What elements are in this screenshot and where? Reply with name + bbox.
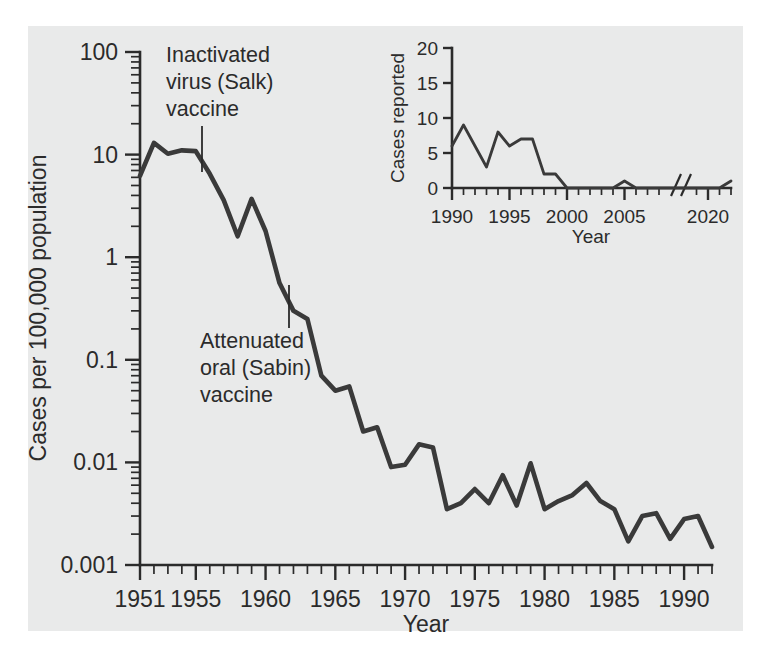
inset-y-tick-label: 20 (417, 38, 438, 59)
inset-x-tick-label: 1990 (431, 206, 473, 227)
y-tick-label: 0.1 (86, 347, 118, 373)
x-tick-label: 1970 (379, 586, 430, 612)
figure-root: 100 10 1 0.1 0.01 0.001 Cases per 100,00… (0, 0, 761, 658)
annotation-salk-line-1: Inactivated (166, 43, 270, 67)
inset-x-tick-label: 1995 (488, 206, 530, 227)
y-tick-label: 1 (105, 244, 118, 270)
inset-y-tick-label: 5 (427, 143, 438, 164)
main-y-axis (125, 52, 140, 565)
x-tick-label: 1960 (240, 586, 291, 612)
x-tick-label: 1975 (449, 586, 500, 612)
main-y-tick-labels: 100 10 1 0.1 0.01 0.001 (60, 39, 118, 578)
main-x-axis-title: Year (403, 611, 450, 637)
y-tick-label: 100 (80, 39, 118, 65)
inset-x-tick-label: 2005 (603, 206, 645, 227)
polio-incidence-chart: 100 10 1 0.1 0.01 0.001 Cases per 100,00… (0, 0, 761, 658)
x-tick-label: 1955 (170, 586, 221, 612)
main-y-axis-title: Cases per 100,000 population (25, 155, 51, 462)
main-x-tick-labels: 195119551960196519701975198019851990 (114, 586, 709, 612)
annotation-sabin-line-3: vaccine (200, 383, 273, 407)
inset-x-tick-label: 2020 (687, 206, 729, 227)
inset-x-tick-label: 2000 (546, 206, 588, 227)
x-tick-label: 1980 (519, 586, 570, 612)
x-tick-label: 1965 (310, 586, 361, 612)
inset-x-axis-title: Year (572, 226, 611, 247)
inset-y-tick-label: 0 (427, 178, 438, 199)
annotation-sabin: Attenuated oral (Sabin) vaccine (200, 285, 311, 407)
x-tick-label: 1951 (114, 586, 165, 612)
annotation-salk-line-3: vaccine (166, 97, 239, 121)
main-x-ticks (140, 565, 712, 580)
annotation-sabin-line-2: oral (Sabin) (200, 356, 311, 380)
inset-axis-break-icon (671, 174, 691, 196)
annotation-salk-line-2: virus (Salk) (166, 70, 274, 94)
annotation-sabin-line-1: Attenuated (200, 329, 304, 353)
inset-y-tick-labels: 20 15 10 5 0 (417, 38, 438, 199)
x-tick-label: 1985 (589, 586, 640, 612)
inset-x-ticks (452, 188, 731, 200)
inset-x-tick-labels: 19901995200020052020 (431, 206, 729, 227)
x-tick-label: 1990 (659, 586, 710, 612)
inset-y-tick-label: 15 (417, 73, 438, 94)
inset-y-axis-title: Cases reported (387, 53, 408, 183)
y-tick-label: 0.01 (73, 449, 118, 475)
y-tick-label: 0.001 (60, 552, 118, 578)
y-tick-label: 10 (92, 142, 118, 168)
inset-y-tick-label: 10 (417, 108, 438, 129)
inset-y-axis (443, 48, 452, 188)
